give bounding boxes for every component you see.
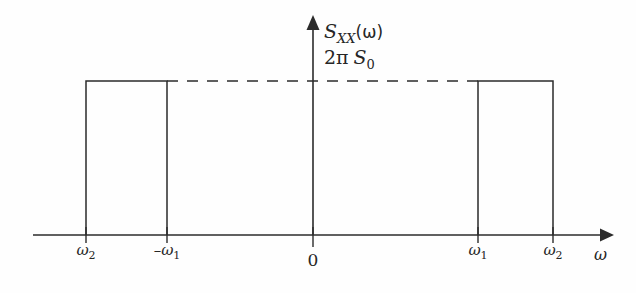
level-subscript: 0 (367, 57, 375, 72)
tick-label-neg-omega1-subscript: 1 (173, 249, 180, 262)
tick-label-pos-omega1-subscript: 1 (481, 249, 488, 262)
negative-frequency-band (86, 81, 167, 235)
y-axis-label-argument: (ω) (356, 22, 384, 42)
y-axis-label-subscript: XX (337, 31, 356, 46)
tick-label-pos-omega1-symbol: ω (468, 241, 480, 259)
level-symbol: S (354, 46, 367, 68)
level-coefficient: 2π (324, 46, 349, 68)
tick-label-neg-omega1-symbol: ω (161, 241, 173, 259)
x-axis-label: ω (594, 247, 607, 263)
tick-label-pos-omega1: ω1 (468, 243, 487, 261)
tick-label-neg-omega1-sign: – (154, 241, 162, 259)
spectral-density-figure: SXX(ω) 2πS0 ω2 –ω1 0 ω1 ω2 ω (0, 0, 636, 293)
level-value-label: 2πS0 (324, 48, 375, 71)
y-axis-arrowhead (307, 15, 320, 30)
tick-label-neg-omega1: –ω1 (154, 243, 181, 261)
origin-label: 0 (308, 252, 319, 269)
positive-frequency-band (478, 81, 553, 235)
tick-label-pos-omega2-symbol: ω (543, 241, 555, 259)
tick-label-pos-omega2-subscript: 2 (556, 249, 563, 262)
y-axis-label-symbol: S (324, 20, 337, 42)
x-axis-arrowhead (600, 229, 614, 242)
tick-label-neg-omega2-symbol: ω (76, 241, 88, 259)
tick-label-neg-omega2-subscript: 2 (89, 249, 96, 262)
tick-label-neg-omega2: ω2 (76, 243, 95, 261)
y-axis-label: SXX(ω) (324, 22, 383, 45)
tick-label-pos-omega2: ω2 (543, 243, 562, 261)
